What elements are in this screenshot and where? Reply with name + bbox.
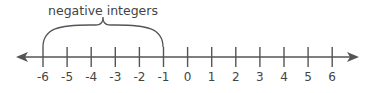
tick-label: -4: [85, 70, 97, 84]
tick-label: -1: [158, 70, 170, 84]
tick-label: -3: [109, 70, 121, 84]
tick-label: 0: [184, 70, 192, 84]
tick-label: -2: [133, 70, 145, 84]
tick-label: 6: [328, 70, 336, 84]
tick-label: 3: [256, 70, 264, 84]
tick-label: -6: [37, 70, 49, 84]
tick-label: -5: [61, 70, 73, 84]
tick-label: 2: [232, 70, 240, 84]
tick-label: 5: [304, 70, 312, 84]
tick-label: 1: [208, 70, 216, 84]
tick-label: 4: [280, 70, 288, 84]
negative-integers-brace: [43, 17, 163, 47]
bracket-label: negative integers: [48, 3, 158, 18]
